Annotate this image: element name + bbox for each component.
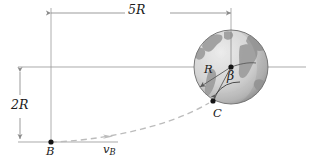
label-5r: 5R [128,4,145,17]
label-radius-r: R [204,64,213,76]
label-point-c: C [213,108,222,120]
label-point-b: B [46,146,54,158]
label-2r: 2R [11,99,28,112]
label-velocity-vb: vB [103,144,116,156]
velocity-subscript: B [110,147,116,157]
point-c-marker [210,98,215,103]
trajectory-dashed-curve [51,103,209,142]
physics-diagram: 5R 2R R β C B vB [0,0,319,164]
label-angle-beta: β [227,70,234,83]
diagram-canvas [0,0,319,164]
